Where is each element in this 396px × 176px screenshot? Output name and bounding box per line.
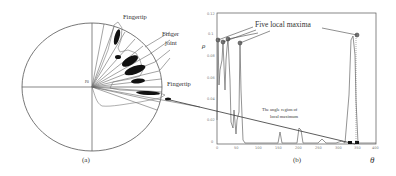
svg-text:0.04: 0.04 xyxy=(207,97,216,101)
figure: Fingertip Finger joint Fingertip P0 (a) … xyxy=(0,0,396,176)
svg-text:0.12: 0.12 xyxy=(207,12,215,16)
svg-text:0.06: 0.06 xyxy=(207,76,215,80)
caption-b: (b) xyxy=(293,156,302,164)
panel-b: 0.12 0.1 0.08 0.06 0.04 0.02 0 0 50 100 … xyxy=(170,12,379,165)
annotation-region-line2: local maximum xyxy=(270,114,299,119)
svg-text:350: 350 xyxy=(354,146,361,150)
svg-text:150: 150 xyxy=(275,146,282,150)
rho-curve xyxy=(217,36,376,143)
svg-text:0.1: 0.1 xyxy=(208,32,214,36)
svg-text:400: 400 xyxy=(372,146,379,150)
svg-text:0.08: 0.08 xyxy=(207,54,215,58)
y-ticks: 0.12 0.1 0.08 0.06 0.04 0.02 0 xyxy=(207,12,216,144)
x-ticks: 0 50 100 150 200 250 300 350 400 xyxy=(216,146,379,150)
svg-text:100: 100 xyxy=(255,146,262,150)
svg-text:0: 0 xyxy=(211,140,213,144)
label-finger-joint-1: Finger xyxy=(162,30,180,37)
maxima-markers xyxy=(216,33,359,45)
label-fingertip-right: Fingertip xyxy=(167,80,191,87)
panel-a: Fingertip Finger joint Fingertip P0 (a) xyxy=(22,13,200,164)
rays xyxy=(92,24,200,110)
svg-text:50: 50 xyxy=(234,146,238,150)
svg-text:250: 250 xyxy=(315,146,322,150)
label-fingertip-top: Fingertip xyxy=(123,13,147,20)
maxima-leaders xyxy=(218,27,357,43)
label-finger-joint-2: joint xyxy=(164,39,177,46)
svg-text:200: 200 xyxy=(295,146,302,150)
label-origin: P0 xyxy=(85,80,89,84)
svg-text:0.02: 0.02 xyxy=(207,118,215,122)
caption-a: (a) xyxy=(82,156,90,164)
annotation-region-line1: The angle region of xyxy=(262,107,298,112)
annotation-five-local-maxima: Five local maxima xyxy=(255,20,311,29)
svg-text:300: 300 xyxy=(335,146,342,150)
y-axis-symbol: ρ xyxy=(201,42,206,50)
svg-text:0: 0 xyxy=(216,146,218,150)
x-axis-symbol: θ xyxy=(370,155,375,165)
